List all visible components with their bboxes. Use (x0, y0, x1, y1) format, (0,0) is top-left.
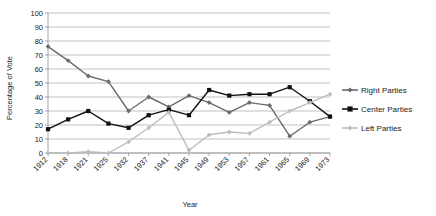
x-tick-label: 1953 (213, 155, 231, 173)
legend-item-right-parties[interactable]: Right Parties (342, 86, 407, 95)
series-left-parties (46, 92, 333, 156)
x-tick-label: 1941 (152, 155, 170, 173)
series-center-parties (46, 85, 332, 131)
chart-container: 0102030405060708090100 19121918192119251… (0, 0, 436, 216)
legend-label: Left Parties (361, 124, 401, 133)
x-tick-label: 1949 (192, 155, 210, 173)
chart-axes (45, 13, 330, 156)
y-axis-title: Percentage of Vote (5, 56, 14, 120)
legend-marker (347, 106, 352, 111)
legend-marker (347, 87, 352, 92)
line-chart: 0102030405060708090100 19121918192119251… (0, 0, 436, 216)
x-tick-label: 1937 (132, 155, 150, 173)
y-tick-label: 40 (35, 93, 43, 102)
x-tick-label: 1925 (92, 155, 110, 173)
legend-marker (347, 125, 352, 130)
x-tick-label: 1957 (233, 155, 251, 173)
x-tick-label: 1918 (51, 155, 69, 173)
legend-item-center-parties[interactable]: Center Parties (342, 105, 412, 114)
y-tick-label: 80 (35, 37, 43, 46)
x-tick-label: 1961 (253, 155, 271, 173)
legend-label: Center Parties (361, 105, 412, 114)
legend-item-left-parties[interactable]: Left Parties (342, 124, 401, 133)
x-tick-label: 1965 (273, 155, 291, 173)
x-tick-label: 1921 (72, 155, 90, 173)
x-axis-tick-labels: 1912191819211925193219371941194519491953… (31, 155, 331, 173)
y-tick-label: 50 (35, 79, 43, 88)
y-tick-label: 70 (35, 51, 43, 60)
y-tick-label: 60 (35, 65, 43, 74)
y-tick-label: 10 (35, 135, 43, 144)
y-tick-label: 100 (30, 9, 43, 18)
x-tick-label: 1912 (31, 155, 49, 173)
y-tick-label: 90 (35, 23, 43, 32)
chart-legend: Right PartiesCenter PartiesLeft Parties (342, 86, 412, 133)
legend-label: Right Parties (361, 86, 407, 95)
x-tick-label: 1973 (313, 155, 331, 173)
y-axis-tick-labels: 0102030405060708090100 (30, 9, 43, 158)
x-tick-label: 1945 (172, 155, 190, 173)
y-tick-label: 20 (35, 121, 43, 130)
y-tick-label: 30 (35, 107, 43, 116)
x-tick-label: 1932 (112, 155, 130, 173)
series-right-parties (46, 44, 333, 138)
x-axis-title: Year (182, 200, 198, 209)
x-tick-label: 1969 (293, 155, 311, 173)
